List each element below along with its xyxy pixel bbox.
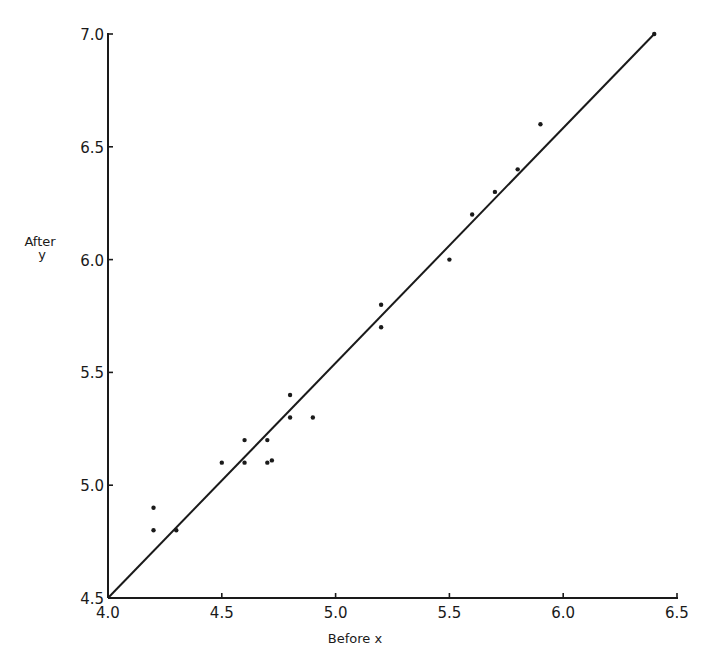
y-tick-label: 5.0 [80, 477, 104, 495]
y-tick-label: 6.5 [80, 139, 104, 157]
y-axis-label: y [38, 247, 46, 262]
data-point [242, 438, 246, 442]
data-point [270, 458, 274, 462]
data-point [174, 528, 178, 532]
data-point [493, 190, 497, 194]
x-tick-label: 4.5 [210, 604, 234, 622]
x-tick-label: 5.0 [324, 604, 348, 622]
x-tick-label: 5.5 [437, 604, 461, 622]
data-point [311, 415, 315, 419]
data-point [447, 257, 451, 261]
x-tick-label: 6.0 [551, 604, 575, 622]
data-point [515, 167, 519, 171]
axes [108, 33, 678, 598]
y-tick-label: 7.0 [80, 26, 104, 44]
data-point [470, 212, 474, 216]
regression-line [108, 34, 654, 598]
axis-labels: 4.04.55.05.56.06.54.55.05.56.06.57.0Befo… [24, 26, 689, 646]
data-point [151, 506, 155, 510]
data-point [151, 528, 155, 532]
data-point [379, 303, 383, 307]
y-tick-label: 5.5 [80, 364, 104, 382]
x-axis-label: Before x [328, 631, 383, 646]
x-tick-label: 6.5 [665, 604, 689, 622]
data-point [265, 438, 269, 442]
data-point [220, 460, 224, 464]
data-point [242, 460, 246, 464]
scatter-chart: 4.04.55.05.56.06.54.55.05.56.06.57.0Befo… [0, 0, 722, 672]
y-tick-label: 6.0 [80, 252, 104, 270]
data-point [652, 32, 656, 36]
y-tick-label: 4.5 [80, 590, 104, 608]
data-point [538, 122, 542, 126]
fitted-line [108, 34, 654, 598]
data-point [288, 393, 292, 397]
data-points [151, 32, 656, 533]
data-point [265, 460, 269, 464]
data-point [288, 415, 292, 419]
data-point [379, 325, 383, 329]
